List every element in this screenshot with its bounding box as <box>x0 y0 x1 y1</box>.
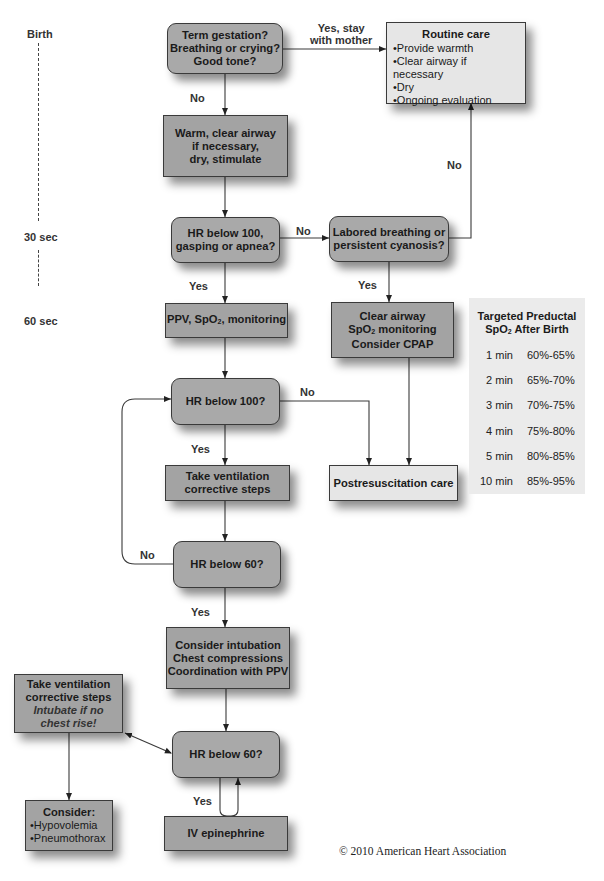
labored-line: Labored breathing or <box>333 226 446 239</box>
clear-airway-cpap-box: Clear airway SpO2 monitoring Consider CP… <box>331 302 454 358</box>
clear-airway-line: SpO2 monitoring <box>348 323 436 338</box>
timeline-dash-1 <box>38 43 39 221</box>
row-time: 3 min <box>486 399 513 411</box>
routine-care-item: Dry <box>393 81 414 94</box>
label-yes-stay-line: with mother <box>310 34 372 46</box>
iv-epi-text: IV epinephrine <box>187 827 264 840</box>
hr-100-text: HR below 100? <box>186 395 266 408</box>
row-range: 60%-65% <box>527 349 575 361</box>
row-time: 1 min <box>486 349 513 361</box>
warm-clear-airway-box: Warm, clear airway if necessary, dry, st… <box>163 115 288 177</box>
row-time: 10 min <box>480 475 513 487</box>
take-vent-left-line: Take ventilation <box>27 678 111 691</box>
consider-item: Hypovolemia <box>26 819 97 832</box>
arrow-hr60b-to-takeventleft <box>125 733 171 753</box>
arrow-hr100-to-postresus <box>280 401 369 465</box>
intubate-note: Intubate if no <box>33 704 103 717</box>
spo2-post: monitoring <box>375 323 437 335</box>
iv-epinephrine-box: IV epinephrine <box>164 816 288 851</box>
label-no-hr100: No <box>300 386 315 398</box>
routine-care-box: Routine care Provide warmth Clear airway… <box>386 22 526 104</box>
label-yes-stay: Yes, stay with mother <box>310 22 372 46</box>
take-vent-line: corrective steps <box>185 483 271 496</box>
intubation-line: Coordination with PPV <box>168 665 289 678</box>
clear-airway-line: Consider CPAP <box>352 338 434 351</box>
routine-care-title: Routine care <box>422 28 490 41</box>
hr-gasping-decision: HR below 100, gasping or apnea? <box>171 217 280 263</box>
intubation-line: Consider intubation <box>175 639 281 652</box>
arrow-epi-loop <box>220 778 238 816</box>
row-range: 80%-85% <box>527 450 575 462</box>
ppv-spo2-box: PPV, SpO2, monitoring <box>165 303 288 338</box>
timeline-birth: Birth <box>27 28 53 40</box>
consider-box: Consider: Hypovolemia Pneumothorax <box>25 800 113 851</box>
row-range: 65%-70% <box>527 374 575 386</box>
warm-line: Warm, clear airway <box>175 127 276 140</box>
copyright-notice: © 2010 American Heart Association <box>339 845 506 857</box>
row-time: 4 min <box>486 425 513 437</box>
consider-title: Consider: <box>43 806 95 819</box>
label-yes-hr100: Yes <box>191 443 210 455</box>
labored-line: persistent cyanosis? <box>333 239 444 252</box>
warm-line: if necessary, <box>192 140 259 153</box>
term-gestation-line: Good tone? <box>194 55 257 68</box>
label-no-gasping: No <box>296 225 311 237</box>
take-ventilation-box: Take ventilation corrective steps <box>165 465 290 501</box>
take-ventilation-intubate-box: Take ventilation corrective steps Intuba… <box>14 674 123 733</box>
label-yes-labored: Yes <box>358 279 377 291</box>
intubate-note: chest rise! <box>41 717 97 730</box>
warm-line: dry, stimulate <box>190 153 262 166</box>
consider-item: Pneumothorax <box>26 832 105 845</box>
term-gestation-decision: Term gestation? Breathing or crying? Goo… <box>167 23 283 74</box>
clear-airway-line: Clear airway <box>360 310 426 323</box>
hr-60-text: HR below 60? <box>190 558 263 571</box>
hr-below-100-decision: HR below 100? <box>171 378 280 425</box>
hr-gasping-line: HR below 100, <box>188 227 264 240</box>
label-yes-epi: Yes <box>193 795 212 807</box>
targeted-spo2-table: Targeted Preductal SpO2 After Birth 1 mi… <box>469 298 585 494</box>
spo2-table-title: Targeted Preductal SpO2 After Birth <box>469 310 585 338</box>
spo2-title-post: After Birth <box>512 323 569 335</box>
label-no-hr60: No <box>140 549 155 561</box>
row-range: 75%-80% <box>527 425 575 437</box>
label-yes-hr60: Yes <box>191 606 210 618</box>
label-no-term: No <box>190 92 205 104</box>
timeline-dash-2 <box>38 250 39 286</box>
routine-care-item: Provide warmth <box>393 42 473 55</box>
postresuscitation-care-box: Postresuscitation care <box>329 465 458 501</box>
timeline-30sec: 30 sec <box>24 231 58 243</box>
hr-below-60-decision-1: HR below 60? <box>173 541 281 588</box>
hr-60b-text: HR below 60? <box>189 748 262 761</box>
row-range: 70%-75% <box>527 399 575 411</box>
hr-gasping-line: gasping or apnea? <box>176 240 275 253</box>
ppv-text-pre: PPV, SpO <box>167 313 218 325</box>
row-time: 2 min <box>486 374 513 386</box>
take-vent-left-line: corrective steps <box>26 691 112 704</box>
intubation-line: Chest compressions <box>173 652 283 665</box>
row-time: 5 min <box>486 450 513 462</box>
ppv-text: PPV, SpO2, monitoring <box>167 313 286 328</box>
row-range: 85%-95% <box>527 475 575 487</box>
hr-below-60-decision-2: HR below 60? <box>172 731 280 778</box>
spo2-table-title-line1: Targeted Preductal <box>469 310 585 323</box>
consider-intubation-box: Consider intubation Chest compressions C… <box>166 627 290 689</box>
label-no-routine: No <box>447 159 462 171</box>
term-gestation-line: Term gestation? <box>182 29 268 42</box>
label-yes-gasping: Yes <box>189 280 208 292</box>
routine-care-item: Clear airway if necessary <box>393 55 519 81</box>
postresus-text: Postresuscitation care <box>333 477 453 490</box>
label-yes-stay-line: Yes, stay <box>310 22 372 34</box>
ppv-text-post: , monitoring <box>221 313 286 325</box>
spo2-title-pre: SpO <box>485 323 508 335</box>
spo2-table-title-line2: SpO2 After Birth <box>469 323 585 338</box>
spo2-pre: SpO <box>348 323 371 335</box>
labored-breathing-decision: Labored breathing or persistent cyanosis… <box>329 216 449 262</box>
take-vent-line: Take ventilation <box>186 470 270 483</box>
routine-care-item: Ongoing evaluation <box>393 94 492 107</box>
timeline-60sec: 60 sec <box>24 315 58 327</box>
term-gestation-line: Breathing or crying? <box>170 42 280 55</box>
